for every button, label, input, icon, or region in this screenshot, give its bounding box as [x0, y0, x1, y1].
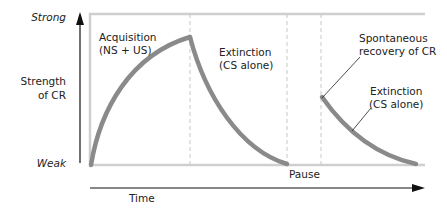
leader-line-extinction-2: [352, 108, 371, 131]
y-axis-arrowhead: [76, 12, 84, 25]
phase-extinction-1-line1: Extinction: [219, 46, 271, 58]
phase-recovery-line1: Spontaneous: [359, 32, 428, 44]
phase-extinction-1-line2: (CS alone): [219, 59, 273, 71]
x-axis-label: Time: [129, 192, 155, 204]
y-top-label: Strong: [8, 11, 66, 23]
phase-recovery-line2: recovery of CR: [359, 45, 436, 57]
phase-pause-label: Pause: [289, 168, 320, 180]
phase-extinction-2-line2: (CS alone): [369, 98, 423, 110]
leader-line-recovery: [322, 57, 360, 98]
phase-extinction-2-line1: Extinction: [370, 85, 422, 97]
y-bottom-label: Weak: [8, 157, 66, 169]
y-axis-title-line1: Strength: [4, 75, 66, 87]
acquisition-curve: [91, 37, 190, 165]
phase-acquisition-line1: Acquisition: [99, 31, 157, 43]
y-axis-title-line2: of CR: [4, 89, 66, 101]
x-axis-arrowhead: [412, 184, 425, 192]
phase-acquisition-line2: (NS + US): [99, 44, 152, 56]
